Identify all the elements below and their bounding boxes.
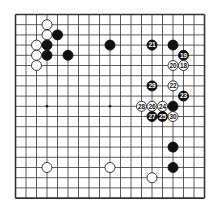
stone-circle — [42, 30, 52, 40]
white-stone[interactable]: 28 — [137, 101, 147, 111]
black-stone[interactable] — [168, 163, 178, 173]
black-stone[interactable] — [42, 50, 52, 60]
black-stone[interactable]: 25 — [158, 112, 168, 122]
stone-circle — [32, 50, 42, 60]
move-number-label: 21 — [148, 41, 156, 48]
stone-circle — [42, 40, 52, 50]
white-stone[interactable] — [32, 61, 42, 71]
white-stone[interactable]: 20 — [168, 61, 178, 71]
stone-circle — [42, 163, 52, 173]
stone-circle — [105, 40, 115, 50]
white-stone[interactable] — [147, 173, 157, 183]
black-stone[interactable]: 21 — [147, 40, 157, 50]
stone-circle — [32, 40, 42, 50]
stone-circle — [53, 30, 63, 40]
star-point — [109, 105, 112, 108]
black-stone[interactable] — [42, 40, 52, 50]
move-number-label: 28 — [138, 103, 146, 110]
move-number-label: 22 — [169, 82, 177, 89]
white-stone[interactable] — [42, 20, 52, 30]
white-stone[interactable]: 30 — [168, 112, 178, 122]
black-stone[interactable] — [105, 40, 115, 50]
black-stone[interactable]: 23 — [179, 91, 189, 101]
move-number-label: 19 — [180, 52, 188, 59]
move-number-label: 29 — [148, 82, 156, 89]
move-number-label: 23 — [180, 92, 188, 99]
star-point — [46, 105, 49, 108]
white-stone[interactable] — [42, 163, 52, 173]
stone-circle — [105, 163, 115, 173]
black-stone[interactable] — [168, 101, 178, 111]
move-number-label: 27 — [148, 113, 156, 120]
stone-circle — [168, 163, 178, 173]
move-number-label: 26 — [148, 103, 156, 110]
white-stone[interactable] — [42, 30, 52, 40]
move-number-label: 20 — [169, 62, 177, 69]
black-stone[interactable] — [53, 30, 63, 40]
go-board[interactable]: 21192018292223282624272530 — [0, 0, 215, 208]
stone-circle — [42, 50, 52, 60]
black-stone[interactable]: 29 — [147, 81, 157, 91]
stone-circle — [63, 50, 73, 60]
white-stone[interactable] — [32, 40, 42, 50]
stone-circle — [42, 20, 52, 30]
black-stone[interactable] — [63, 50, 73, 60]
white-stone[interactable] — [105, 163, 115, 173]
black-stone[interactable] — [168, 40, 178, 50]
white-stone[interactable] — [32, 50, 42, 60]
move-number-label: 25 — [159, 113, 167, 120]
stone-circle — [147, 173, 157, 183]
stone-circle — [168, 101, 178, 111]
black-stone[interactable]: 19 — [179, 50, 189, 60]
stone-circle — [168, 142, 178, 152]
white-stone[interactable]: 24 — [158, 101, 168, 111]
move-number-label: 30 — [169, 113, 177, 120]
black-stone[interactable]: 27 — [147, 112, 157, 122]
white-stone[interactable]: 18 — [179, 61, 189, 71]
white-stone[interactable]: 22 — [168, 81, 178, 91]
black-stone[interactable] — [168, 142, 178, 152]
white-stone[interactable]: 26 — [147, 101, 157, 111]
stone-circle — [32, 61, 42, 71]
move-number-label: 24 — [159, 103, 167, 110]
stone-circle — [168, 40, 178, 50]
move-number-label: 18 — [180, 62, 188, 69]
